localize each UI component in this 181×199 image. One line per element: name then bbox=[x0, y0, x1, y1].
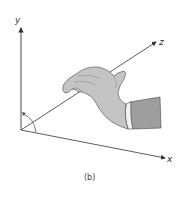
x-axis bbox=[21, 130, 165, 158]
sleeve bbox=[130, 97, 161, 129]
rotation-arc-icon bbox=[23, 114, 36, 132]
y-axis-label: y bbox=[14, 15, 21, 25]
z-axis-label: z bbox=[158, 37, 164, 47]
x-axis-label: x bbox=[166, 154, 173, 164]
left-hand bbox=[63, 67, 128, 129]
figure-caption: (b) bbox=[84, 173, 95, 182]
coordinate-system-diagram: y z x (b) bbox=[0, 0, 181, 199]
